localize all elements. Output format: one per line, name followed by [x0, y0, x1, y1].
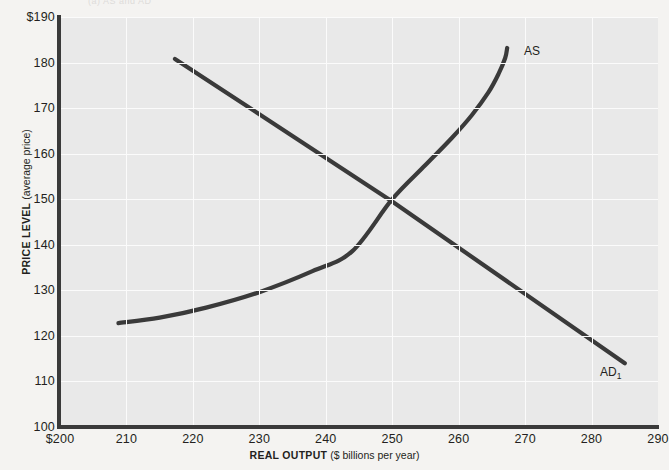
gridline-vertical	[392, 17, 393, 427]
y-axis-title-rest: (average price)	[20, 129, 32, 203]
gridline-vertical	[525, 17, 526, 427]
x-axis-tick-label: 260	[448, 432, 469, 446]
as-curve-label: AS	[524, 44, 540, 58]
gridline-vertical	[592, 17, 593, 427]
x-axis-tick-label: 220	[182, 432, 203, 446]
x-axis-line	[57, 425, 659, 429]
gridline-horizontal	[60, 245, 658, 246]
gridline-horizontal	[60, 290, 658, 291]
chart-figure: (a) AS and AD $1901801701601501401301201…	[0, 0, 669, 470]
gridline-horizontal	[60, 154, 658, 155]
x-axis-tick-label: 240	[315, 432, 336, 446]
x-axis-title-bold: REAL OUTPUT	[250, 449, 328, 461]
gridline-horizontal	[60, 108, 658, 109]
x-axis-tick-label: 290	[647, 432, 668, 446]
gridline-horizontal	[60, 381, 658, 382]
y-axis-line	[57, 15, 61, 429]
x-axis-title: REAL OUTPUT ($ billions per year)	[0, 449, 669, 461]
ad1-curve-label: AD1	[600, 365, 621, 381]
x-axis-title-rest: ($ billions per year)	[327, 449, 419, 461]
y-axis-tick-label: 110	[3, 374, 55, 388]
gridline-vertical	[126, 17, 127, 427]
ad1-curve	[175, 59, 625, 363]
gridline-horizontal	[60, 199, 658, 200]
y-axis-title: PRICE LEVEL (average price)	[20, 102, 32, 302]
y-axis-tick-label: $190	[3, 10, 55, 24]
x-axis-tick-label: 250	[381, 432, 402, 446]
gridline-vertical	[459, 17, 460, 427]
gridline-vertical	[326, 17, 327, 427]
gridline-horizontal	[60, 336, 658, 337]
x-axis-tick-label: 270	[514, 432, 535, 446]
y-axis-tick-label: 180	[3, 56, 55, 70]
x-axis-tick-label: 230	[249, 432, 270, 446]
curves-layer	[60, 17, 658, 427]
x-axis-tick-label: 210	[116, 432, 137, 446]
y-axis-tick-label: 120	[3, 329, 55, 343]
x-axis-tick-label: $200	[46, 432, 75, 446]
gridline-horizontal	[60, 17, 658, 18]
gridline-vertical	[193, 17, 194, 427]
gridline-horizontal	[60, 63, 658, 64]
as-curve	[118, 48, 507, 323]
cropped-header-text: (a) AS and AD	[88, 0, 288, 6]
plot-area	[60, 17, 658, 427]
gridline-vertical	[259, 17, 260, 427]
x-axis-tick-label: 280	[581, 432, 602, 446]
y-axis-title-bold: PRICE LEVEL	[20, 203, 32, 275]
